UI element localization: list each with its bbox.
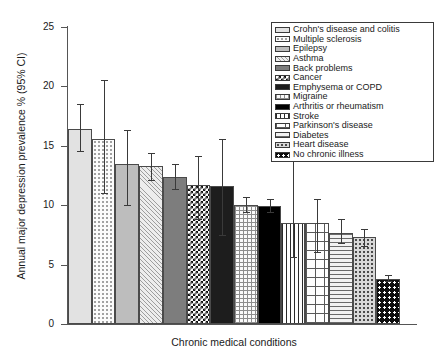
chart-legend: Crohn's disease and colitisMultiple scle… xyxy=(271,22,434,162)
y-tick-label: 20 xyxy=(28,81,54,91)
error-bar xyxy=(175,164,176,189)
error-bar xyxy=(317,199,318,251)
legend-swatch-icon xyxy=(275,142,290,148)
legend-item-label: Cancer xyxy=(293,73,322,82)
error-bar-cap-lower xyxy=(385,281,392,282)
error-bar xyxy=(127,130,128,205)
legend-item-label: Parkinson's disease xyxy=(293,121,373,130)
bar xyxy=(234,205,258,324)
legend-item: Asthma xyxy=(275,54,431,64)
error-bar-cap-upper xyxy=(195,156,202,157)
legend-swatch-icon xyxy=(275,46,290,52)
legend-swatch-icon xyxy=(275,104,290,110)
error-bar xyxy=(293,159,294,258)
legend-item-label: No chronic illness xyxy=(293,150,364,159)
error-bar-cap-lower xyxy=(124,205,131,206)
legend-swatch-icon xyxy=(275,132,290,138)
legend-swatch-icon xyxy=(275,94,290,100)
error-bar xyxy=(198,156,199,219)
legend-item: No chronic illness xyxy=(275,150,431,160)
y-axis-label: Annual major depression prevalence % (95… xyxy=(15,41,27,291)
legend-swatch-icon xyxy=(275,84,290,90)
error-bar-cap-lower xyxy=(219,235,226,236)
error-bar-cap-lower xyxy=(195,219,202,220)
chart-figure: 0510152025 Annual major depression preva… xyxy=(0,0,442,357)
error-bar xyxy=(270,199,271,212)
error-bar-cap-upper xyxy=(385,275,392,276)
error-bar-cap-upper xyxy=(361,229,368,230)
error-bar-cap-lower xyxy=(338,243,345,244)
legend-swatch-icon xyxy=(275,36,290,42)
error-bar xyxy=(364,229,365,246)
legend-swatch-icon xyxy=(275,65,290,71)
y-tick-mark xyxy=(61,146,67,147)
error-bar xyxy=(104,80,105,193)
error-bar-cap-lower xyxy=(77,151,84,152)
bar xyxy=(139,166,163,324)
y-tick-mark xyxy=(61,324,67,325)
error-bar-cap-upper xyxy=(124,130,131,131)
error-bar-cap-lower xyxy=(101,193,108,194)
error-bar-cap-lower xyxy=(172,189,179,190)
y-tick-mark xyxy=(61,265,67,266)
y-tick-label: 25 xyxy=(28,22,54,32)
legend-item-label: Crohn's disease and colitis xyxy=(293,25,400,34)
error-bar-cap-lower xyxy=(290,257,297,258)
y-tick-label: 5 xyxy=(28,260,54,270)
y-tick-label: 10 xyxy=(28,200,54,210)
error-bar-cap-lower xyxy=(314,252,321,253)
legend-swatch-icon xyxy=(275,56,290,62)
y-tick-mark xyxy=(61,27,67,28)
y-tick-mark xyxy=(61,205,67,206)
error-bar-cap-upper xyxy=(77,104,84,105)
error-bar xyxy=(80,104,81,150)
error-bar xyxy=(341,219,342,243)
error-bar xyxy=(246,197,247,212)
legend-swatch-icon xyxy=(275,152,290,158)
error-bar-cap-upper xyxy=(314,199,321,200)
error-bar-cap-lower xyxy=(148,180,155,181)
error-bar-cap-upper xyxy=(267,199,274,200)
bar xyxy=(68,129,92,324)
legend-swatch-icon xyxy=(275,27,290,33)
error-bar-cap-upper xyxy=(338,219,345,220)
error-bar-cap-lower xyxy=(361,246,368,247)
error-bar-cap-upper xyxy=(243,197,250,198)
x-axis-line xyxy=(67,324,417,325)
error-bar-cap-lower xyxy=(267,212,274,213)
legend-swatch-icon xyxy=(275,113,290,119)
error-bar-cap-lower xyxy=(243,212,250,213)
error-bar-cap-upper xyxy=(172,164,179,165)
legend-item-label: Asthma xyxy=(293,54,324,63)
legend-swatch-icon xyxy=(275,123,290,129)
error-bar-cap-upper xyxy=(101,80,108,81)
error-bar xyxy=(222,139,223,235)
bar xyxy=(376,279,400,324)
error-bar-cap-upper xyxy=(219,139,226,140)
error-bar xyxy=(151,153,152,180)
y-tick-mark xyxy=(61,86,67,87)
error-bar-cap-upper xyxy=(148,153,155,154)
bar xyxy=(163,177,187,324)
y-tick-label: 0 xyxy=(28,319,54,329)
legend-item-label: Arthritis or rheumatism xyxy=(293,102,384,111)
y-tick-label: 15 xyxy=(28,141,54,151)
bar xyxy=(353,237,377,324)
bar xyxy=(258,206,282,324)
bar xyxy=(329,233,353,324)
legend-swatch-icon xyxy=(275,75,290,81)
x-axis-label: Chronic medical conditions xyxy=(68,336,400,348)
legend-item: Arthritis or rheumatism xyxy=(275,102,431,112)
